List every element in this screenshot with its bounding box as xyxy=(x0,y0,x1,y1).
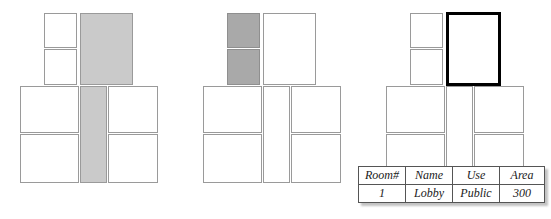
room-attribute-table[interactable]: Room# Name Use Area 1 Lobby Public 300 xyxy=(358,166,545,203)
room-top-left-upper[interactable] xyxy=(44,13,77,48)
room-top-left-upper[interactable] xyxy=(227,13,260,48)
room-top-left-upper[interactable] xyxy=(410,13,443,48)
room-top-left-lower[interactable] xyxy=(227,49,260,85)
column-header-area: Area xyxy=(500,167,545,185)
table-row[interactable]: 1 Lobby Public 300 xyxy=(359,185,545,203)
room-mid-right[interactable] xyxy=(108,86,158,133)
column-header-name: Name xyxy=(406,167,453,185)
floor-plan-figure: Room# Name Use Area 1 Lobby Public 300 xyxy=(0,0,551,219)
room-mid-right[interactable] xyxy=(474,86,524,133)
left-floor-plan-panel xyxy=(0,0,185,190)
room-top-right-tall[interactable] xyxy=(80,13,133,85)
room-mid-left[interactable] xyxy=(386,86,445,133)
room-mid-center-corridor[interactable] xyxy=(80,86,107,183)
room-mid-left[interactable] xyxy=(203,86,262,133)
room-bottom-left[interactable] xyxy=(20,134,79,183)
cell-area[interactable]: 300 xyxy=(500,185,545,203)
room-mid-left[interactable] xyxy=(20,86,79,133)
room-top-left-lower[interactable] xyxy=(44,49,77,85)
column-header-use: Use xyxy=(453,167,500,185)
room-bottom-left[interactable] xyxy=(203,134,262,183)
room-bottom-right[interactable] xyxy=(108,134,158,183)
room-top-right-tall-selected[interactable] xyxy=(446,12,501,86)
room-mid-right[interactable] xyxy=(291,86,341,133)
cell-room-name[interactable]: Lobby xyxy=(406,185,453,203)
column-header-room-number: Room# xyxy=(359,167,406,185)
room-mid-center-corridor[interactable] xyxy=(263,86,290,183)
middle-floor-plan-panel xyxy=(183,0,368,190)
table-header-row: Room# Name Use Area xyxy=(359,167,545,185)
cell-use[interactable]: Public xyxy=(453,185,500,203)
cell-room-number[interactable]: 1 xyxy=(359,185,406,203)
room-bottom-right[interactable] xyxy=(291,134,341,183)
right-floor-plan-panel xyxy=(366,0,551,190)
room-top-left-lower[interactable] xyxy=(410,49,443,85)
room-top-right-tall[interactable] xyxy=(263,13,316,85)
